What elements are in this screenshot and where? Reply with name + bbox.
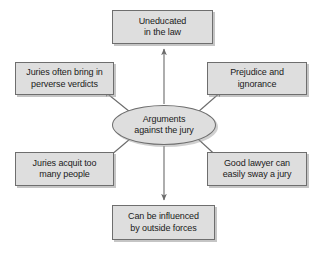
concept-map-diagram: Uneducated in the law Juries often bring… (0, 0, 323, 254)
node-uneducated-in-the-law: Uneducated in the law (112, 10, 213, 44)
node-label: Prejudice and ignorance (227, 67, 287, 90)
node-center-arguments-against-the-jury: Arguments against the jury (112, 105, 216, 145)
node-label: Juries acquit too many people (30, 158, 100, 181)
node-label: Uneducated in the law (136, 16, 190, 39)
node-influenced-by-outside-forces: Can be influenced by outside forces (112, 205, 215, 240)
node-label: Juries often bring in perverse verdicts (23, 67, 105, 90)
node-label: Good lawyer can easily sway a jury (220, 158, 295, 181)
node-prejudice-and-ignorance: Prejudice and ignorance (207, 62, 307, 95)
center-node-label: Arguments against the jury (134, 114, 193, 137)
node-label: Can be influenced by outside forces (125, 211, 202, 234)
node-good-lawyer-sways-jury: Good lawyer can easily sway a jury (207, 152, 307, 186)
node-juries-bring-perverse-verdicts: Juries often bring in perverse verdicts (15, 62, 114, 95)
node-juries-acquit-too-many: Juries acquit too many people (15, 152, 114, 186)
